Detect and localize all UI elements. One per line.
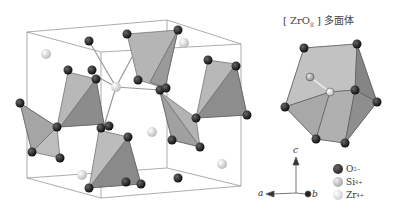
polyhedron-title: [ ZrO8 ] 多面体 [283, 12, 354, 28]
oxygen-ball-icon [333, 164, 343, 174]
zirconium-ball-icon [333, 190, 343, 200]
legend-item-oxygen: O2− [333, 162, 364, 175]
legend-item-zirconium: Zr4+ [333, 188, 364, 201]
legend: O2− Si4+ Zr4+ [333, 162, 364, 201]
axis-label-b: b [312, 189, 318, 199]
silicon-ball-icon [333, 177, 343, 187]
sio4-tetrahedra [20, 30, 247, 188]
zro8-polyhedron [281, 40, 382, 148]
legend-item-silicon: Si4+ [333, 175, 364, 188]
axis-triad [266, 157, 311, 197]
axis-label-c: c [293, 145, 298, 155]
axis-label-a: a [258, 188, 263, 198]
